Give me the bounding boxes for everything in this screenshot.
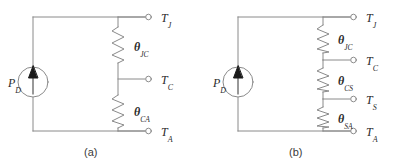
b-node-label-ta: TA: [366, 123, 378, 142]
b-source-label-pd: PD: [213, 74, 226, 93]
b-resistor-theta-cs: [317, 68, 329, 92]
a-node-label-tj: TJ: [161, 9, 171, 28]
b-terminal-ts: [351, 96, 357, 102]
a-source-label-pd: PD: [8, 74, 21, 93]
a-resistor-theta-ca: [112, 95, 124, 128]
a-node-label-ta: TA: [161, 123, 173, 142]
b-node-label-ts: TS: [366, 91, 377, 110]
b-resistor-label-theta-cs: θCS: [338, 72, 353, 91]
b-resistor-label-theta-jc: θJC: [338, 31, 353, 50]
thermal-circuit-figure: TJ TC TA θJC θCA PD (a) TJ TC TS TA θJC …: [0, 0, 403, 167]
a-terminal-tj: [146, 14, 152, 20]
b-node-label-tc: TC: [366, 52, 378, 71]
a-resistor-label-theta-ca: θCA: [134, 103, 150, 122]
subfigure-caption-b: (b): [289, 146, 302, 158]
b-resistor-theta-jc: [317, 25, 329, 53]
b-resistor-theta-sa: [317, 107, 329, 128]
a-resistor-theta-jc: [112, 27, 124, 63]
a-node-label-tc: TC: [161, 71, 173, 90]
b-resistor-label-theta-sa: θSA: [338, 110, 353, 129]
b-terminal-tj: [351, 14, 357, 20]
subfigure-caption-a: (a): [84, 146, 97, 158]
a-resistor-label-theta-jc: θJC: [134, 38, 149, 57]
a-terminal-tc: [146, 76, 152, 82]
b-node-label-tj: TJ: [366, 9, 376, 28]
a-terminal-ta: [146, 128, 152, 134]
b-terminal-tc: [351, 57, 357, 63]
